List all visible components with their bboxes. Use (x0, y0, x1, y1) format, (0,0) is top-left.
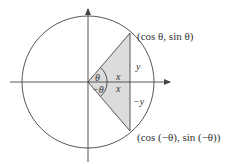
label-x-bottom: x (115, 83, 121, 94)
label-point-bottom: (cos (−θ), sin (−θ)) (137, 131, 221, 144)
label-angle-pos: θ (95, 72, 100, 83)
label-y-bottom: −y (133, 96, 145, 107)
label-angle-neg: −θ (92, 84, 104, 95)
label-point-top: (cos θ, sin θ) (137, 30, 194, 43)
label-x-top: x (115, 71, 121, 82)
label-y-top: y (135, 61, 141, 72)
unit-circle-diagram: (cos θ, sin θ) (cos (−θ), sin (−θ)) θ −θ… (0, 0, 240, 164)
